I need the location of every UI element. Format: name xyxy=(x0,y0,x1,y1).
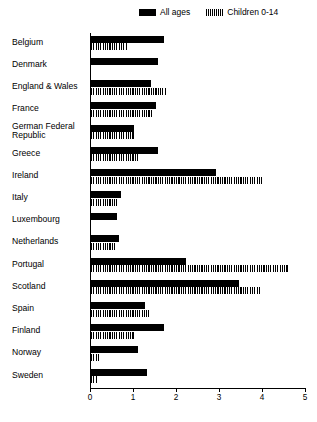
bar-children-0-14 xyxy=(91,332,134,339)
bar-all-ages xyxy=(91,258,186,265)
bar-children-0-14 xyxy=(91,265,289,272)
bar-all-ages xyxy=(91,80,151,87)
bar-all-ages xyxy=(91,235,119,242)
category-label: Belgium xyxy=(4,38,90,48)
x-axis-tick-label: 1 xyxy=(131,393,136,403)
category-label: Greece xyxy=(4,149,90,159)
category-label: Italy xyxy=(4,193,90,203)
category-axis: BelgiumDenmarkEngland & WalesFranceGerma… xyxy=(0,33,90,388)
legend-label-children: Children 0-14 xyxy=(227,8,278,17)
category-label: Netherlands xyxy=(4,237,90,247)
bar-children-0-14 xyxy=(91,154,138,161)
category-label: Spain xyxy=(4,304,90,314)
bar-all-ages xyxy=(91,36,164,43)
bar-children-0-14 xyxy=(91,310,149,317)
bar-children-0-14 xyxy=(91,376,97,383)
bar-children-0-14 xyxy=(91,199,117,206)
bar-all-ages xyxy=(91,58,158,65)
bar-all-ages xyxy=(91,213,117,220)
value-axis: 012345 xyxy=(90,388,305,410)
bar-all-ages xyxy=(91,102,156,109)
bar-children-0-14 xyxy=(91,354,100,361)
bar-children-0-14 xyxy=(91,243,115,250)
category-label: Sweden xyxy=(4,371,90,381)
x-axis-tick xyxy=(90,388,91,392)
bar-all-ages xyxy=(91,280,239,287)
x-axis-tick xyxy=(219,388,220,392)
category-label: Finland xyxy=(4,326,90,336)
category-label: Scotland xyxy=(4,282,90,292)
x-axis-tick xyxy=(176,388,177,392)
bar-children-0-14 xyxy=(91,287,261,294)
bar-all-ages xyxy=(91,125,134,132)
category-label: England & Wales xyxy=(4,82,90,92)
legend-entry-all-ages: All ages xyxy=(139,8,190,17)
solid-swatch-icon xyxy=(139,9,156,16)
category-label: Norway xyxy=(4,348,90,358)
bar-chart: All ages Children 0-14 BelgiumDenmarkEng… xyxy=(0,0,317,422)
x-axis-tick-label: 2 xyxy=(174,393,179,403)
bar-all-ages xyxy=(91,191,121,198)
bar-children-0-14 xyxy=(91,110,153,117)
plot-area xyxy=(90,33,306,389)
x-axis-tick-label: 4 xyxy=(260,393,265,403)
bar-children-0-14 xyxy=(91,88,166,95)
bar-all-ages xyxy=(91,169,216,176)
legend-entry-children: Children 0-14 xyxy=(206,8,278,17)
chart-legend: All ages Children 0-14 xyxy=(139,8,278,17)
x-axis-tick-label: 0 xyxy=(88,393,93,403)
x-axis-tick xyxy=(133,388,134,392)
category-label: German Federal Republic xyxy=(4,122,90,141)
x-axis-tick xyxy=(262,388,263,392)
x-axis-tick-label: 5 xyxy=(303,393,308,403)
bar-children-0-14 xyxy=(91,177,263,184)
category-label: Luxembourg xyxy=(4,215,90,225)
x-axis-tick xyxy=(305,388,306,392)
bar-all-ages xyxy=(91,324,164,331)
bar-all-ages xyxy=(91,346,138,353)
bar-all-ages xyxy=(91,147,158,154)
category-label: France xyxy=(4,104,90,114)
category-label: Portugal xyxy=(4,260,90,270)
bar-children-0-14 xyxy=(91,43,128,50)
bar-children-0-14 xyxy=(91,132,134,139)
bar-all-ages xyxy=(91,302,145,309)
bar-all-ages xyxy=(91,369,147,376)
legend-label-all-ages: All ages xyxy=(160,8,190,17)
category-label: Ireland xyxy=(4,171,90,181)
category-label: Denmark xyxy=(4,60,90,70)
hatched-swatch-icon xyxy=(206,9,223,16)
x-axis-tick-label: 3 xyxy=(217,393,222,403)
